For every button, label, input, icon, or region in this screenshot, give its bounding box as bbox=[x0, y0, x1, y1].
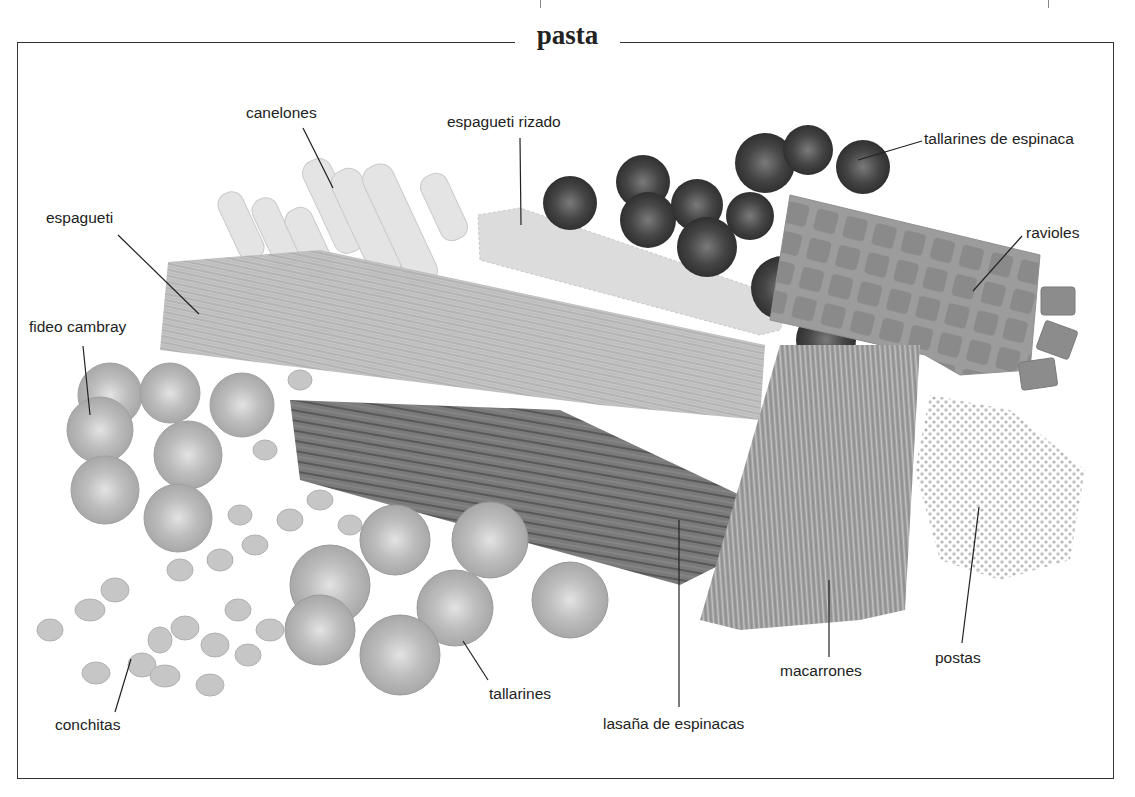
label-conchitas: conchitas bbox=[55, 716, 120, 734]
label-tallarines: tallarines bbox=[489, 685, 551, 703]
label-macarrones: macarrones bbox=[780, 662, 862, 680]
pasta-illustration bbox=[0, 0, 1135, 797]
label-canelones: canelones bbox=[246, 104, 317, 122]
label-espagueti-rizado: espagueti rizado bbox=[447, 113, 561, 131]
postas-shape bbox=[915, 395, 1085, 580]
label-lasana-de-espinacas: lasaña de espinacas bbox=[603, 715, 744, 733]
label-ravioles: ravioles bbox=[1026, 224, 1079, 242]
label-postas: postas bbox=[935, 649, 981, 667]
label-espagueti: espagueti bbox=[46, 209, 113, 227]
label-tallarines-de-espinaca: tallarines de espinaca bbox=[924, 130, 1074, 148]
label-fideo-cambray: fideo cambray bbox=[29, 318, 126, 336]
